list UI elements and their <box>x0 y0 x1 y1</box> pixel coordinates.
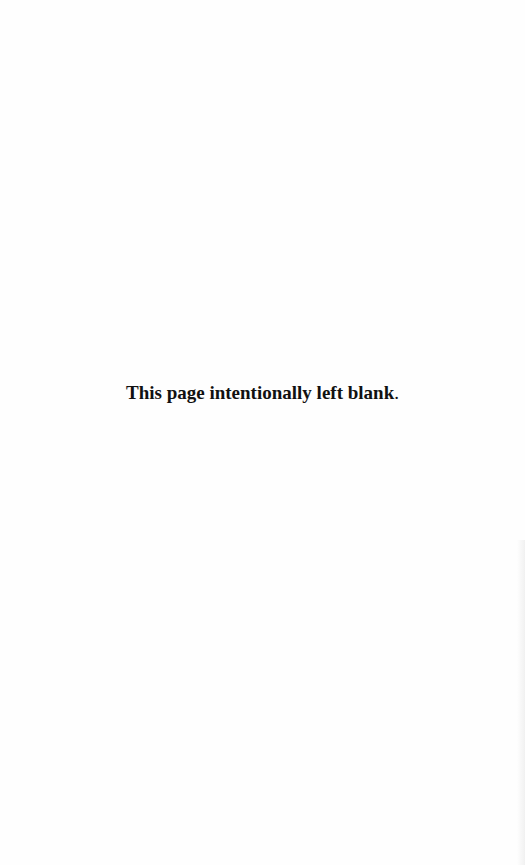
blank-page-notice-text: This page intentionally left blank <box>126 382 394 403</box>
blank-page-notice: This page intentionally left blank. <box>0 382 525 404</box>
document-page: This page intentionally left blank. <box>0 0 525 865</box>
blank-page-notice-period: . <box>394 382 399 403</box>
page-edge-shadow <box>517 540 525 865</box>
